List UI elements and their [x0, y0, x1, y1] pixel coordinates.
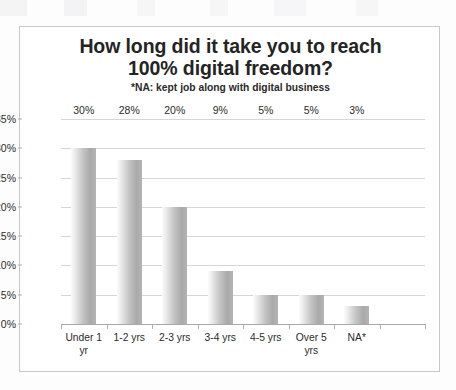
bar-value-label: 20% [164, 104, 185, 116]
x-axis-category-label: 4-5 yrs [243, 332, 289, 345]
bar[interactable]: 30% [71, 148, 96, 324]
bar[interactable]: 5% [253, 295, 278, 324]
chart-title-line-1: How long did it take you to reach [20, 35, 441, 57]
bar[interactable]: 20% [162, 207, 187, 324]
bar-series: 30%28%20%9%5%5%3% [61, 119, 425, 324]
y-axis-tick-mark [18, 206, 22, 207]
bar[interactable]: 9% [208, 271, 233, 324]
y-axis-tick-label: 20% [0, 201, 16, 213]
x-axis-tick-mark [61, 324, 62, 329]
bar[interactable]: 28% [117, 160, 142, 324]
bar-slot: 30% [61, 119, 107, 324]
x-axis-tick-mark [289, 324, 290, 329]
y-axis-tick-mark [18, 119, 22, 120]
y-axis-tick-label: 25% [0, 172, 16, 184]
x-axis-category-label: 3-4 yrs [198, 332, 244, 345]
x-axis-tick-mark [152, 324, 153, 329]
scan-noise [0, 0, 456, 16]
bar-value-label: 5% [258, 104, 273, 116]
y-axis-tick-label: 5% [1, 289, 16, 301]
x-axis-tick-mark [243, 324, 244, 329]
y-axis-tick-mark [18, 236, 22, 237]
y-axis-tick-label: 15% [0, 230, 16, 242]
y-axis-tick-label: 30% [0, 142, 16, 154]
bar-slot: 9% [198, 119, 244, 324]
chart-title-line-2: 100% digital freedom? [20, 57, 441, 79]
y-axis-tick-label: 0% [1, 318, 16, 330]
y-axis-tick-mark [18, 294, 22, 295]
x-axis-category-label: NA* [334, 332, 380, 345]
x-axis-tick-mark [107, 324, 108, 329]
bar-slot: 3% [334, 119, 380, 324]
x-axis-category-label: 2-3 yrs [152, 332, 198, 345]
bar-slot: 20% [152, 119, 198, 324]
bar-slot: 5% [289, 119, 335, 324]
y-axis-tick-mark [18, 177, 22, 178]
x-axis-category-label: 1-2 yrs [107, 332, 153, 345]
x-axis-tick-mark [380, 324, 381, 329]
y-axis-tick-label: 35% [0, 113, 16, 125]
y-axis-tick-mark [18, 265, 22, 266]
chart-container: How long did it take you to reach 100% d… [19, 26, 440, 372]
x-axis-tick-mark [198, 324, 199, 329]
bar-slot: 28% [107, 119, 153, 324]
x-axis-tick-mark [334, 324, 335, 329]
y-axis-labels: 0%5%10%15%20%25%30%35% [0, 119, 16, 324]
y-axis-tick-mark [18, 324, 22, 325]
chart-subtitle: *NA: kept job along with digital busines… [20, 82, 441, 93]
x-axis-line [61, 324, 425, 325]
x-axis-labels: Under 1 yr1-2 yrs2-3 yrs3-4 yrs4-5 yrsOv… [61, 332, 425, 366]
bar-value-label: 28% [119, 104, 140, 116]
plot-area: 30%28%20%9%5%5%3% [61, 119, 425, 324]
x-axis-category-label: Over 5 yrs [289, 332, 335, 357]
bar-slot: 5% [243, 119, 289, 324]
x-axis-tick-mark [425, 324, 426, 329]
bar[interactable]: 5% [299, 295, 324, 324]
bar-value-label: 5% [304, 104, 319, 116]
bar[interactable]: 3% [344, 306, 369, 324]
y-axis-tick-label: 10% [0, 259, 16, 271]
x-axis-category-label: Under 1 yr [61, 332, 107, 357]
bar-value-label: 9% [213, 104, 228, 116]
bar-value-label: 30% [73, 104, 94, 116]
bar-value-label: 3% [349, 104, 364, 116]
y-axis-tick-mark [18, 148, 22, 149]
chart-title: How long did it take you to reach 100% d… [20, 35, 441, 79]
